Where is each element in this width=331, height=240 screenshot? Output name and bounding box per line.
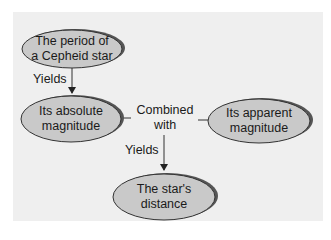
- node-cepheid-period: The period ofa Cepheid star: [22, 30, 122, 68]
- node-label-line2: magnitude: [230, 121, 288, 135]
- edge-label-combined-with: Combined with: [133, 103, 197, 133]
- edge-label-line1: Combined: [137, 103, 194, 117]
- edge-label-yields-2: Yields: [125, 143, 159, 158]
- node-absolute-magnitude: Its absolutemagnitude: [21, 96, 121, 142]
- node-label-line1: Its absolute: [39, 104, 103, 118]
- node-star-distance: The star'sdistance: [113, 174, 215, 220]
- node-label-line2: distance: [141, 197, 188, 211]
- node-label-line2: magnitude: [42, 119, 100, 133]
- edge-label-line2: with: [154, 118, 176, 132]
- edge-label-yields-1: Yields: [33, 72, 67, 87]
- node-label-line1: The period of: [35, 34, 109, 48]
- node-label-line2: a Cepheid star: [31, 49, 112, 63]
- node-label-line1: The star's: [137, 182, 192, 196]
- node-label-line1: Its apparent: [226, 106, 292, 120]
- node-apparent-magnitude: Its apparentmagnitude: [208, 99, 310, 143]
